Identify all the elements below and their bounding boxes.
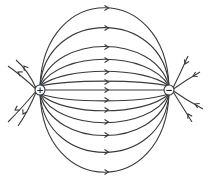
field-line bbox=[40, 71, 169, 86]
arrow-right-icon bbox=[105, 120, 109, 125]
stub-field-line bbox=[172, 90, 192, 122]
field-line bbox=[40, 59, 169, 86]
positive-charge-sign: + bbox=[36, 85, 44, 95]
stub-field-line bbox=[172, 90, 203, 109]
positive-charge: + bbox=[35, 85, 45, 95]
field-lines-canvas: + − bbox=[0, 0, 210, 179]
field-line bbox=[40, 94, 169, 101]
arrow-right-icon bbox=[105, 80, 109, 85]
arrow-right-icon bbox=[105, 45, 109, 50]
arrow-right-icon bbox=[105, 70, 109, 75]
negative-charge: − bbox=[164, 85, 174, 95]
arrow-right-icon bbox=[105, 58, 109, 63]
stub-field-line bbox=[8, 66, 37, 90]
field-line bbox=[40, 94, 169, 136]
arrow-right-icon bbox=[105, 98, 109, 103]
negative-charge-sign: − bbox=[165, 85, 173, 95]
field-lines bbox=[40, 6, 169, 175]
arrow-right-icon bbox=[105, 108, 109, 113]
field-line bbox=[40, 81, 169, 86]
arrow-icon bbox=[21, 109, 27, 115]
stub-field-line bbox=[8, 90, 37, 122]
